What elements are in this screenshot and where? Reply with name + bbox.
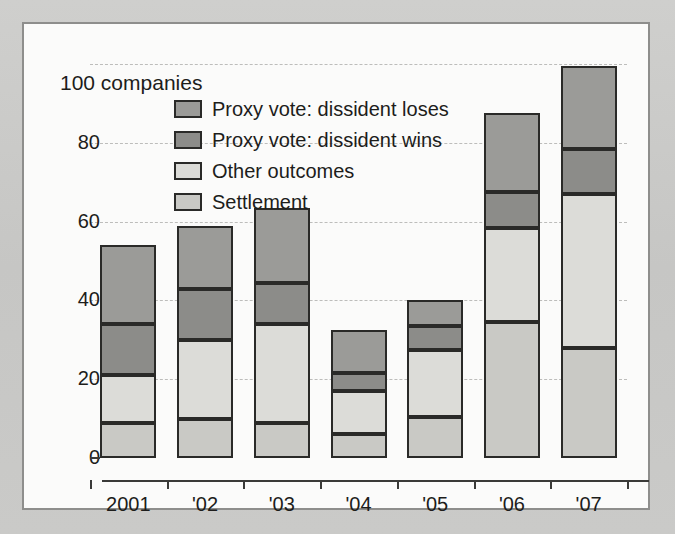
x-tick-mark — [167, 480, 169, 489]
bar-segment — [254, 324, 310, 423]
bar-segment — [254, 423, 310, 458]
bar-segment — [561, 149, 617, 194]
bar-segment — [407, 326, 463, 350]
x-axis-baseline — [102, 480, 649, 482]
bar-segment — [254, 283, 310, 324]
legend-label: Other outcomes — [212, 161, 354, 181]
bar-segment — [177, 226, 233, 289]
bar-segment — [561, 194, 617, 348]
bar-segment — [177, 419, 233, 458]
bar-segment — [177, 340, 233, 419]
bar-segment — [331, 434, 387, 458]
legend-item[interactable]: Settlement — [174, 189, 449, 215]
bar-06 — [484, 111, 540, 458]
legend-item[interactable]: Proxy vote: dissident loses — [174, 96, 449, 122]
bar-segment — [254, 208, 310, 283]
legend-swatch-icon — [174, 193, 202, 211]
bar-segment — [331, 391, 387, 434]
bar-03 — [254, 206, 310, 458]
bar-segment — [484, 322, 540, 458]
x-tick-label: '07 — [544, 494, 634, 514]
x-tick-mark — [550, 480, 552, 489]
bar-segment — [100, 245, 156, 324]
legend-swatch-icon — [174, 131, 202, 149]
chart-card: 100 companies 020406080 2001'02'03'04'05… — [22, 22, 650, 510]
bar-05 — [407, 300, 463, 458]
legend-swatch-icon — [174, 100, 202, 118]
bar-segment — [484, 113, 540, 192]
bar-segment — [561, 66, 617, 149]
x-tick-mark — [243, 480, 245, 489]
x-tick-mark — [320, 480, 322, 489]
x-tick-mark — [397, 480, 399, 489]
bar-segment — [484, 228, 540, 323]
bar-segment — [331, 373, 387, 391]
bar-segment — [177, 289, 233, 340]
legend-label: Proxy vote: dissident wins — [212, 130, 442, 150]
bar-segment — [100, 375, 156, 422]
legend-item[interactable]: Other outcomes — [174, 158, 449, 184]
bar-2001 — [100, 245, 156, 458]
chart-legend: Proxy vote: dissident losesProxy vote: d… — [174, 96, 449, 215]
bar-02 — [177, 226, 233, 458]
chart-figure: 100 companies 020406080 2001'02'03'04'05… — [0, 0, 675, 534]
bar-segment — [484, 192, 540, 227]
bar-segment — [407, 417, 463, 458]
bar-segment — [407, 350, 463, 417]
x-tick-mark — [627, 480, 629, 489]
x-tick-mark — [90, 480, 92, 489]
bar-segment — [561, 348, 617, 458]
bar-segment — [331, 330, 387, 373]
x-tick-mark — [474, 480, 476, 489]
bar-segment — [100, 324, 156, 375]
bar-04 — [331, 332, 387, 458]
legend-swatch-icon — [174, 162, 202, 180]
bar-segment — [100, 423, 156, 458]
legend-label: Proxy vote: dissident loses — [212, 99, 449, 119]
bar-segment — [407, 300, 463, 326]
legend-item[interactable]: Proxy vote: dissident wins — [174, 127, 449, 153]
legend-label: Settlement — [212, 192, 308, 212]
bar-07 — [561, 64, 617, 458]
